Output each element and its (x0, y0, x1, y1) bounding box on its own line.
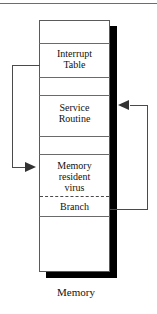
right-connector-top-segment (130, 105, 148, 106)
virus-line-3: virus (39, 182, 110, 193)
virus-line-1: Memory (39, 160, 110, 171)
segment-label-branch: Branch (39, 201, 110, 212)
top-horizontal-rule (0, 3, 157, 4)
segment-label-interrupt-table: Interrupt Table (39, 48, 110, 70)
service-routine-line-2: Routine (39, 113, 110, 124)
segment-divider-5 (39, 154, 110, 155)
figure-caption: Memory (26, 286, 126, 298)
interrupt-table-line-2: Table (39, 59, 110, 70)
right-connector-arrowhead-icon (118, 100, 129, 110)
segment-divider-2 (39, 77, 110, 78)
right-connector-bottom-segment (110, 209, 148, 210)
segment-divider-1 (39, 43, 110, 44)
service-routine-line-1: Service (39, 102, 110, 113)
interrupt-table-line-1: Interrupt (39, 48, 110, 59)
segment-label-service-routine: Service Routine (39, 102, 110, 124)
left-connector-vertical-segment (12, 65, 13, 168)
left-connector-top-segment (12, 65, 40, 66)
segment-label-memory-resident-virus: Memory resident virus (39, 160, 110, 193)
branch-dashed-divider (40, 196, 109, 197)
right-connector-vertical-segment (147, 105, 148, 210)
segment-divider-3 (39, 95, 110, 96)
segment-divider-6 (39, 216, 110, 217)
segment-divider-4 (39, 136, 110, 137)
left-connector-arrowhead-icon (25, 162, 36, 172)
virus-line-2: resident (39, 171, 110, 182)
memory-resident-virus-diagram: Interrupt Table Service Routine Memory r… (0, 0, 157, 314)
left-connector-bottom-segment (12, 167, 26, 168)
